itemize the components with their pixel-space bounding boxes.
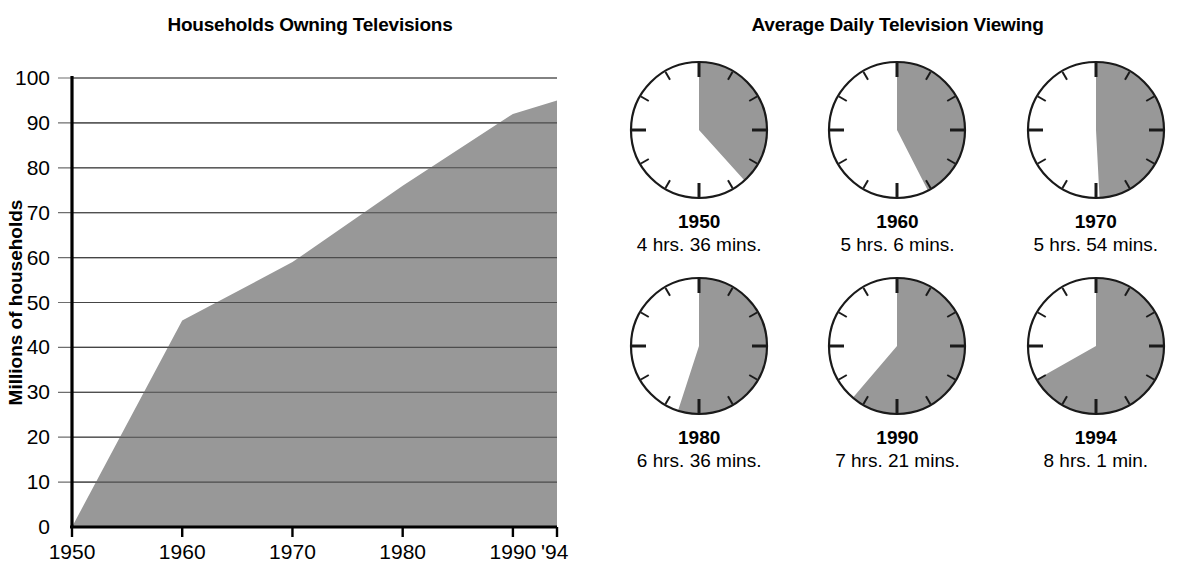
y-tick-label: 10 xyxy=(27,470,50,493)
y-tick-label: 100 xyxy=(15,66,50,89)
viewing-clocks-panel: Average Daily Television Viewing 19504 h… xyxy=(600,0,1195,565)
clock-year-label: 1994 xyxy=(1075,428,1117,449)
area-series-households xyxy=(72,101,557,528)
clock-face-1980 xyxy=(621,268,777,424)
clock-cell-1950: 19504 hrs. 36 mins. xyxy=(600,52,798,256)
clock-face-1994 xyxy=(1018,268,1174,424)
clock-cell-1980: 19806 hrs. 36 mins. xyxy=(600,268,798,472)
area-chart: 0102030405060708090100195019601970198019… xyxy=(0,0,600,565)
clock-duration-label: 5 hrs. 6 mins. xyxy=(840,234,954,256)
clock-face-1990 xyxy=(819,268,975,424)
clock-year-label: 1950 xyxy=(678,212,720,233)
clock-cell-1960: 19605 hrs. 6 mins. xyxy=(798,52,996,256)
clock-cell-1994: 19948 hrs. 1 min. xyxy=(997,268,1195,472)
clock-duration-label: 7 hrs. 21 mins. xyxy=(835,450,960,472)
right-chart-title: Average Daily Television Viewing xyxy=(600,14,1195,36)
y-tick-label: 50 xyxy=(27,291,50,314)
x-tick-label: 1990 xyxy=(490,540,537,563)
y-tick-label: 60 xyxy=(27,246,50,269)
y-axis-title: Millions of households xyxy=(5,200,26,406)
y-tick-label: 40 xyxy=(27,335,50,358)
clock-cell-1970: 19705 hrs. 54 mins. xyxy=(997,52,1195,256)
clock-duration-label: 4 hrs. 36 mins. xyxy=(637,234,762,256)
clock-cell-1990: 19907 hrs. 21 mins. xyxy=(798,268,996,472)
clock-face-1950 xyxy=(621,52,777,208)
households-chart-panel: Households Owning Televisions 0102030405… xyxy=(0,0,600,565)
clock-grid: 19504 hrs. 36 mins.19605 hrs. 6 mins.197… xyxy=(600,52,1195,483)
x-tick-label: 1980 xyxy=(379,540,426,563)
x-tick-label: 1950 xyxy=(49,540,96,563)
y-tick-label: 30 xyxy=(27,380,50,403)
y-tick-label: 90 xyxy=(27,111,50,134)
clock-face-1970 xyxy=(1018,52,1174,208)
x-tick-label: 1970 xyxy=(269,540,316,563)
clock-duration-label: 6 hrs. 36 mins. xyxy=(637,450,762,472)
clock-duration-label: 5 hrs. 54 mins. xyxy=(1033,234,1158,256)
x-tick-label-end: '94 xyxy=(541,540,569,563)
clock-year-label: 1960 xyxy=(876,212,918,233)
y-tick-label: 0 xyxy=(38,515,50,538)
clock-duration-label: 8 hrs. 1 min. xyxy=(1044,450,1149,472)
clock-year-label: 1970 xyxy=(1075,212,1117,233)
clock-year-label: 1990 xyxy=(876,428,918,449)
clock-year-label: 1980 xyxy=(678,428,720,449)
y-tick-label: 70 xyxy=(27,201,50,224)
y-tick-label: 20 xyxy=(27,425,50,448)
clock-face-1960 xyxy=(819,52,975,208)
x-tick-label: 1960 xyxy=(159,540,206,563)
y-tick-label: 80 xyxy=(27,156,50,179)
